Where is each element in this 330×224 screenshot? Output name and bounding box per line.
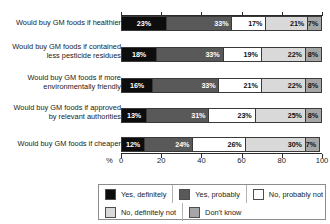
bar-segment: 33%: [153, 78, 219, 93]
bar-track: 16%33%21%22%8%: [121, 78, 322, 93]
bar-segment: 8%: [306, 47, 322, 62]
segment-value-label: 31%: [191, 111, 208, 120]
legend-swatch: [253, 189, 264, 200]
segment-value-label: 18%: [132, 50, 146, 59]
bar-segment: 7%: [308, 16, 322, 31]
segment-value-label: 33%: [214, 19, 231, 28]
bar-segment: 21%: [219, 78, 261, 93]
segment-value-label: 17%: [248, 19, 265, 28]
bar-segment: 33%: [167, 16, 233, 31]
x-tick-label: 20: [157, 156, 165, 165]
bar-track: 18%33%19%22%8%: [121, 47, 322, 62]
category-label: Would buy GM foods if contained less pes…: [3, 43, 121, 60]
segment-value-label: 8%: [308, 50, 321, 59]
bar-segment: 21%: [266, 16, 308, 31]
bar-segment: 16%: [121, 78, 153, 93]
bar-segment: 33%: [157, 47, 223, 62]
bar-row: Would buy GM foods if more environmental…: [0, 78, 330, 93]
bar-row: Would buy GM foods if healthier23%33%17%…: [0, 16, 330, 31]
bar-segment: 18%: [121, 47, 157, 62]
segment-value-label: 33%: [205, 50, 222, 59]
segment-value-label: 30%: [288, 140, 305, 149]
chart-legend: Yes, definitelyYes, probablyNo, probably…: [98, 184, 326, 220]
x-tick-label: 80: [278, 156, 286, 165]
plot-area: Would buy GM foods if healthier23%33%17%…: [0, 0, 330, 168]
segment-value-label: 23%: [238, 111, 255, 120]
segment-value-label: 7%: [306, 140, 319, 149]
x-tick-label: 0: [119, 156, 123, 165]
x-axis-tick-labels: 020406080100: [121, 156, 322, 168]
segment-value-label: 33%: [201, 81, 218, 90]
segment-value-label: 25%: [288, 111, 305, 120]
segment-value-label: 22%: [288, 50, 305, 59]
axis-unit-label: %: [106, 156, 113, 165]
bar-segment: 13%: [121, 108, 147, 123]
category-label: Would buy GM foods if healthier: [3, 19, 121, 28]
legend-item[interactable]: No, definitely not: [99, 203, 182, 221]
bar-row: Would buy GM foods if approved by releva…: [0, 108, 330, 123]
legend-label: Don't know: [205, 208, 241, 217]
bar-segment: 22%: [262, 47, 306, 62]
segment-value-label: 22%: [288, 81, 305, 90]
bar-segment: 23%: [121, 16, 167, 31]
bar-row: Would buy GM foods if contained less pes…: [0, 47, 330, 62]
legend-label: No, probably not: [269, 190, 323, 199]
legend-row-bottom: No, definitely notDon't know: [99, 203, 327, 221]
segment-value-label: 16%: [130, 81, 144, 90]
segment-value-label: 23%: [137, 19, 151, 28]
bar-segment: 7%: [306, 137, 320, 152]
legend-item[interactable]: Yes, definitely: [99, 185, 172, 203]
bar-track: 23%33%17%21%7%: [121, 16, 322, 31]
legend-row-top: Yes, definitelyYes, probablyNo, probably…: [99, 185, 327, 203]
stacked-bar-chart: Would buy GM foods if healthier23%33%17%…: [0, 0, 330, 224]
segment-value-label: 8%: [308, 81, 321, 90]
category-label: Would buy GM foods if more environmental…: [3, 74, 121, 91]
category-label: Would buy GM foods if cheaper: [3, 140, 121, 149]
bar-segment: 8%: [306, 78, 322, 93]
segment-value-label: 8%: [308, 111, 321, 120]
legend-swatch: [179, 189, 190, 200]
legend-item[interactable]: Yes, probably: [172, 185, 246, 203]
segment-value-label: 12%: [126, 140, 140, 149]
bar-segment: 22%: [262, 78, 306, 93]
segment-value-label: 7%: [308, 19, 321, 28]
legend-item[interactable]: No, probably not: [246, 185, 329, 203]
segment-value-label: 21%: [244, 81, 261, 90]
segment-value-label: 26%: [228, 140, 245, 149]
bar-segment: 31%: [147, 108, 209, 123]
legend-label: Yes, probably: [195, 190, 240, 199]
axis-bottom: [121, 153, 322, 154]
legend-swatch: [105, 207, 116, 218]
x-tick-label: 60: [237, 156, 245, 165]
bar-track: 13%31%23%25%8%: [121, 108, 322, 123]
x-tick-label: 40: [197, 156, 205, 165]
legend-label: Yes, definitely: [121, 190, 166, 199]
category-label: Would buy GM foods if approved by releva…: [3, 104, 121, 121]
bar-segment: 23%: [209, 108, 255, 123]
segment-value-label: 13%: [127, 111, 141, 120]
bar-segment: 24%: [145, 137, 193, 152]
bar-segment: 19%: [224, 47, 262, 62]
legend-label: No, definitely not: [121, 208, 176, 217]
axis-top: [121, 15, 322, 16]
bar-segment: 12%: [121, 137, 145, 152]
bar-track: 12%24%26%30%7%: [121, 137, 322, 152]
bar-segment: 30%: [246, 137, 306, 152]
segment-value-label: 21%: [290, 19, 307, 28]
segment-value-label: 19%: [244, 50, 261, 59]
bar-row: Would buy GM foods if cheaper12%24%26%30…: [0, 137, 330, 152]
legend-item[interactable]: Don't know: [182, 203, 247, 221]
legend-swatch: [189, 207, 200, 218]
bar-segment: 17%: [232, 16, 266, 31]
bar-segment: 25%: [256, 108, 306, 123]
x-tick-label: 100: [316, 156, 329, 165]
bar-segment: 8%: [306, 108, 322, 123]
bar-segment: 26%: [193, 137, 245, 152]
segment-value-label: 24%: [175, 140, 192, 149]
legend-swatch: [105, 189, 116, 200]
